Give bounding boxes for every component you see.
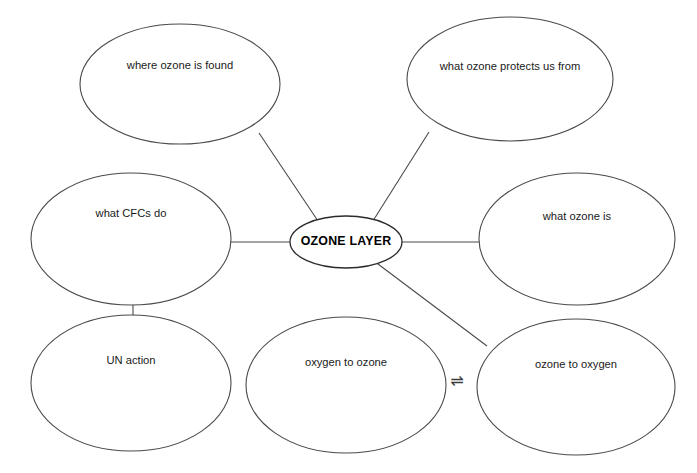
ellipse-un-action: [31, 315, 231, 451]
connector-center-to-what-ozone-protects-us-from: [371, 132, 429, 224]
ellipse-where-ozone-is-found: [80, 24, 280, 144]
connector-center-to-where-ozone-is-found: [259, 133, 320, 224]
node-oxygen-to-ozone[interactable]: oxygen to ozone: [246, 317, 446, 453]
ellipse-what-cfcs-do: [31, 173, 231, 305]
label-un-action: UN action: [106, 354, 155, 366]
node-what-ozone-protects-us-from[interactable]: what ozone protects us from: [407, 17, 613, 141]
label-what-ozone-is: what ozone is: [542, 210, 612, 222]
node-ozone-layer[interactable]: OZONE LAYER: [290, 216, 402, 268]
label-what-ozone-protects-us-from: what ozone protects us from: [439, 60, 581, 72]
node-un-action[interactable]: UN action: [31, 315, 231, 451]
label-oxygen-to-ozone: oxygen to ozone: [305, 356, 387, 368]
mind-map-svg: where ozone is foundwhat ozone protects …: [0, 0, 697, 473]
node-what-ozone-is[interactable]: what ozone is: [479, 173, 675, 305]
ellipse-what-ozone-protects-us-from: [407, 17, 613, 141]
ellipse-ozone-to-oxygen: [477, 319, 675, 455]
annotations-layer: ⇌: [450, 371, 463, 390]
equilibrium-arrow-icon: ⇌: [450, 371, 463, 390]
node-ozone-to-oxygen[interactable]: ozone to oxygen: [477, 319, 675, 455]
label-ozone-layer: OZONE LAYER: [301, 234, 392, 248]
ellipse-what-ozone-is: [479, 173, 675, 305]
node-what-cfcs-do[interactable]: what CFCs do: [31, 173, 231, 305]
ellipse-oxygen-to-ozone: [246, 317, 446, 453]
node-where-ozone-is-found[interactable]: where ozone is found: [80, 24, 280, 144]
label-where-ozone-is-found: where ozone is found: [126, 59, 233, 71]
label-ozone-to-oxygen: ozone to oxygen: [535, 358, 617, 370]
nodes-layer: where ozone is foundwhat ozone protects …: [31, 17, 675, 455]
diagram-canvas: where ozone is foundwhat ozone protects …: [0, 0, 697, 473]
label-what-cfcs-do: what CFCs do: [95, 207, 167, 219]
